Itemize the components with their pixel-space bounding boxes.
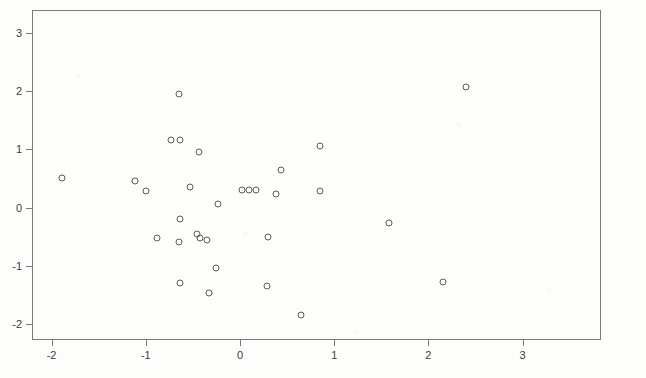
data-point: [204, 236, 211, 243]
data-point: [196, 149, 203, 156]
data-point: [197, 235, 204, 242]
y-axis-tick: [26, 33, 32, 34]
x-axis-tick-label: 0: [237, 350, 243, 361]
data-point: [176, 215, 183, 222]
data-point: [385, 219, 392, 226]
data-point: [154, 234, 161, 241]
data-point: [175, 238, 182, 245]
data-point: [317, 188, 324, 195]
x-axis-tick: [240, 340, 241, 346]
y-axis-tick-label: 1: [16, 144, 22, 155]
y-axis-tick-label: -1: [12, 260, 22, 271]
data-point: [264, 282, 271, 289]
y-axis-tick: [26, 208, 32, 209]
data-point: [463, 83, 470, 90]
data-point: [213, 265, 220, 272]
data-point: [440, 278, 447, 285]
y-axis-tick-label: -2: [12, 319, 22, 330]
x-axis-tick: [334, 340, 335, 346]
data-point: [205, 290, 212, 297]
x-axis-tick: [523, 340, 524, 346]
x-axis-tick-label: 3: [520, 350, 526, 361]
data-point: [215, 200, 222, 207]
y-axis-tick: [26, 324, 32, 325]
data-point: [175, 90, 182, 97]
data-point: [272, 191, 279, 198]
plot-frame: [32, 10, 601, 340]
y-axis-tick: [26, 149, 32, 150]
data-point: [142, 187, 149, 194]
data-point: [277, 166, 284, 173]
y-axis-tick-label: 2: [16, 86, 22, 97]
x-axis-tick-label: 2: [425, 350, 431, 361]
x-axis-tick-label: -2: [47, 350, 57, 361]
y-axis-tick-label: 3: [16, 28, 22, 39]
data-point: [58, 174, 65, 181]
data-point: [238, 187, 245, 194]
x-axis-tick-label: 1: [331, 350, 337, 361]
y-axis-tick: [26, 266, 32, 267]
data-point: [265, 233, 272, 240]
y-axis-tick-label: 0: [16, 202, 22, 213]
data-point: [253, 187, 260, 194]
x-axis-tick: [52, 340, 53, 346]
y-axis-tick: [26, 91, 32, 92]
x-axis-tick: [146, 340, 147, 346]
data-point: [317, 142, 324, 149]
x-axis-tick-label: -1: [141, 350, 151, 361]
data-point: [132, 178, 139, 185]
data-point: [176, 137, 183, 144]
data-point: [168, 137, 175, 144]
data-point: [187, 184, 194, 191]
data-point: [176, 279, 183, 286]
x-axis-tick: [428, 340, 429, 346]
data-point: [298, 311, 305, 318]
scatter-plot-figure: 3210-1-2-2-10123: [0, 0, 646, 378]
